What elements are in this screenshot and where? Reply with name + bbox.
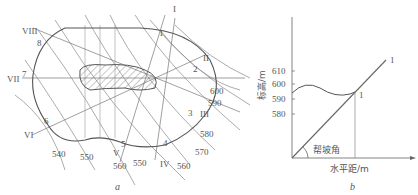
x-axis-arrow bbox=[410, 156, 416, 160]
point-4: 4 bbox=[163, 138, 168, 148]
plan-view-a: I II III IV V VI VII VIII 1 2 3 4 5 6 7 … bbox=[7, 4, 250, 192]
section-label-VIII: VIII bbox=[22, 26, 38, 36]
contour-label-600: 600 bbox=[210, 86, 224, 96]
section-label-IV: IV bbox=[160, 159, 170, 169]
slope-angle-figure: I II III IV V VI VII VIII 1 2 3 4 5 6 7 … bbox=[0, 0, 418, 195]
section-label-VI: VI bbox=[24, 130, 34, 140]
contour-label-550: 550 bbox=[80, 152, 94, 162]
ytick-590: 590 bbox=[272, 94, 286, 104]
contour-label-540: 540 bbox=[52, 149, 66, 159]
point-6: 6 bbox=[44, 116, 49, 126]
slope-line bbox=[292, 60, 386, 158]
point-1: 1 bbox=[159, 28, 164, 38]
ore-body-hatched bbox=[80, 65, 157, 90]
section-label-V: V bbox=[113, 148, 120, 158]
contour-label-550b: 550 bbox=[133, 158, 147, 168]
line-label-mid: 1 bbox=[359, 90, 364, 100]
ytick-580: 580 bbox=[272, 109, 286, 119]
section-label-III: III bbox=[200, 109, 209, 119]
contour-label-560b: 560 bbox=[177, 161, 191, 171]
point-5: 5 bbox=[121, 139, 126, 149]
ytick-600: 600 bbox=[272, 79, 286, 89]
point-3: 3 bbox=[188, 108, 193, 118]
angle-arc bbox=[303, 147, 308, 158]
section-label-I: I bbox=[173, 4, 176, 14]
terrain-profile bbox=[292, 85, 355, 95]
point-8: 8 bbox=[37, 38, 42, 48]
contour-label-580: 580 bbox=[200, 129, 214, 139]
contour-label-590: 590 bbox=[208, 98, 222, 108]
caption-b: b bbox=[350, 181, 355, 192]
slope-angle-label: 帮坡角 bbox=[313, 144, 340, 155]
contour-label-560: 560 bbox=[113, 161, 127, 171]
section-chart-b: 610 600 590 580 标高/m 帮坡角 1 1 水平距/m b bbox=[256, 17, 416, 192]
line-label-top: 1 bbox=[390, 55, 395, 65]
ytick-610: 610 bbox=[272, 66, 286, 76]
section-label-II: II bbox=[203, 53, 209, 63]
contour-label-570: 570 bbox=[195, 147, 209, 157]
point-7: 7 bbox=[22, 69, 27, 79]
point-2: 2 bbox=[193, 64, 198, 74]
y-axis-label: 标高/m bbox=[256, 70, 267, 100]
section-label-VII: VII bbox=[7, 74, 20, 84]
caption-a: a bbox=[115, 181, 120, 192]
x-axis-label: 水平距/m bbox=[330, 163, 369, 174]
